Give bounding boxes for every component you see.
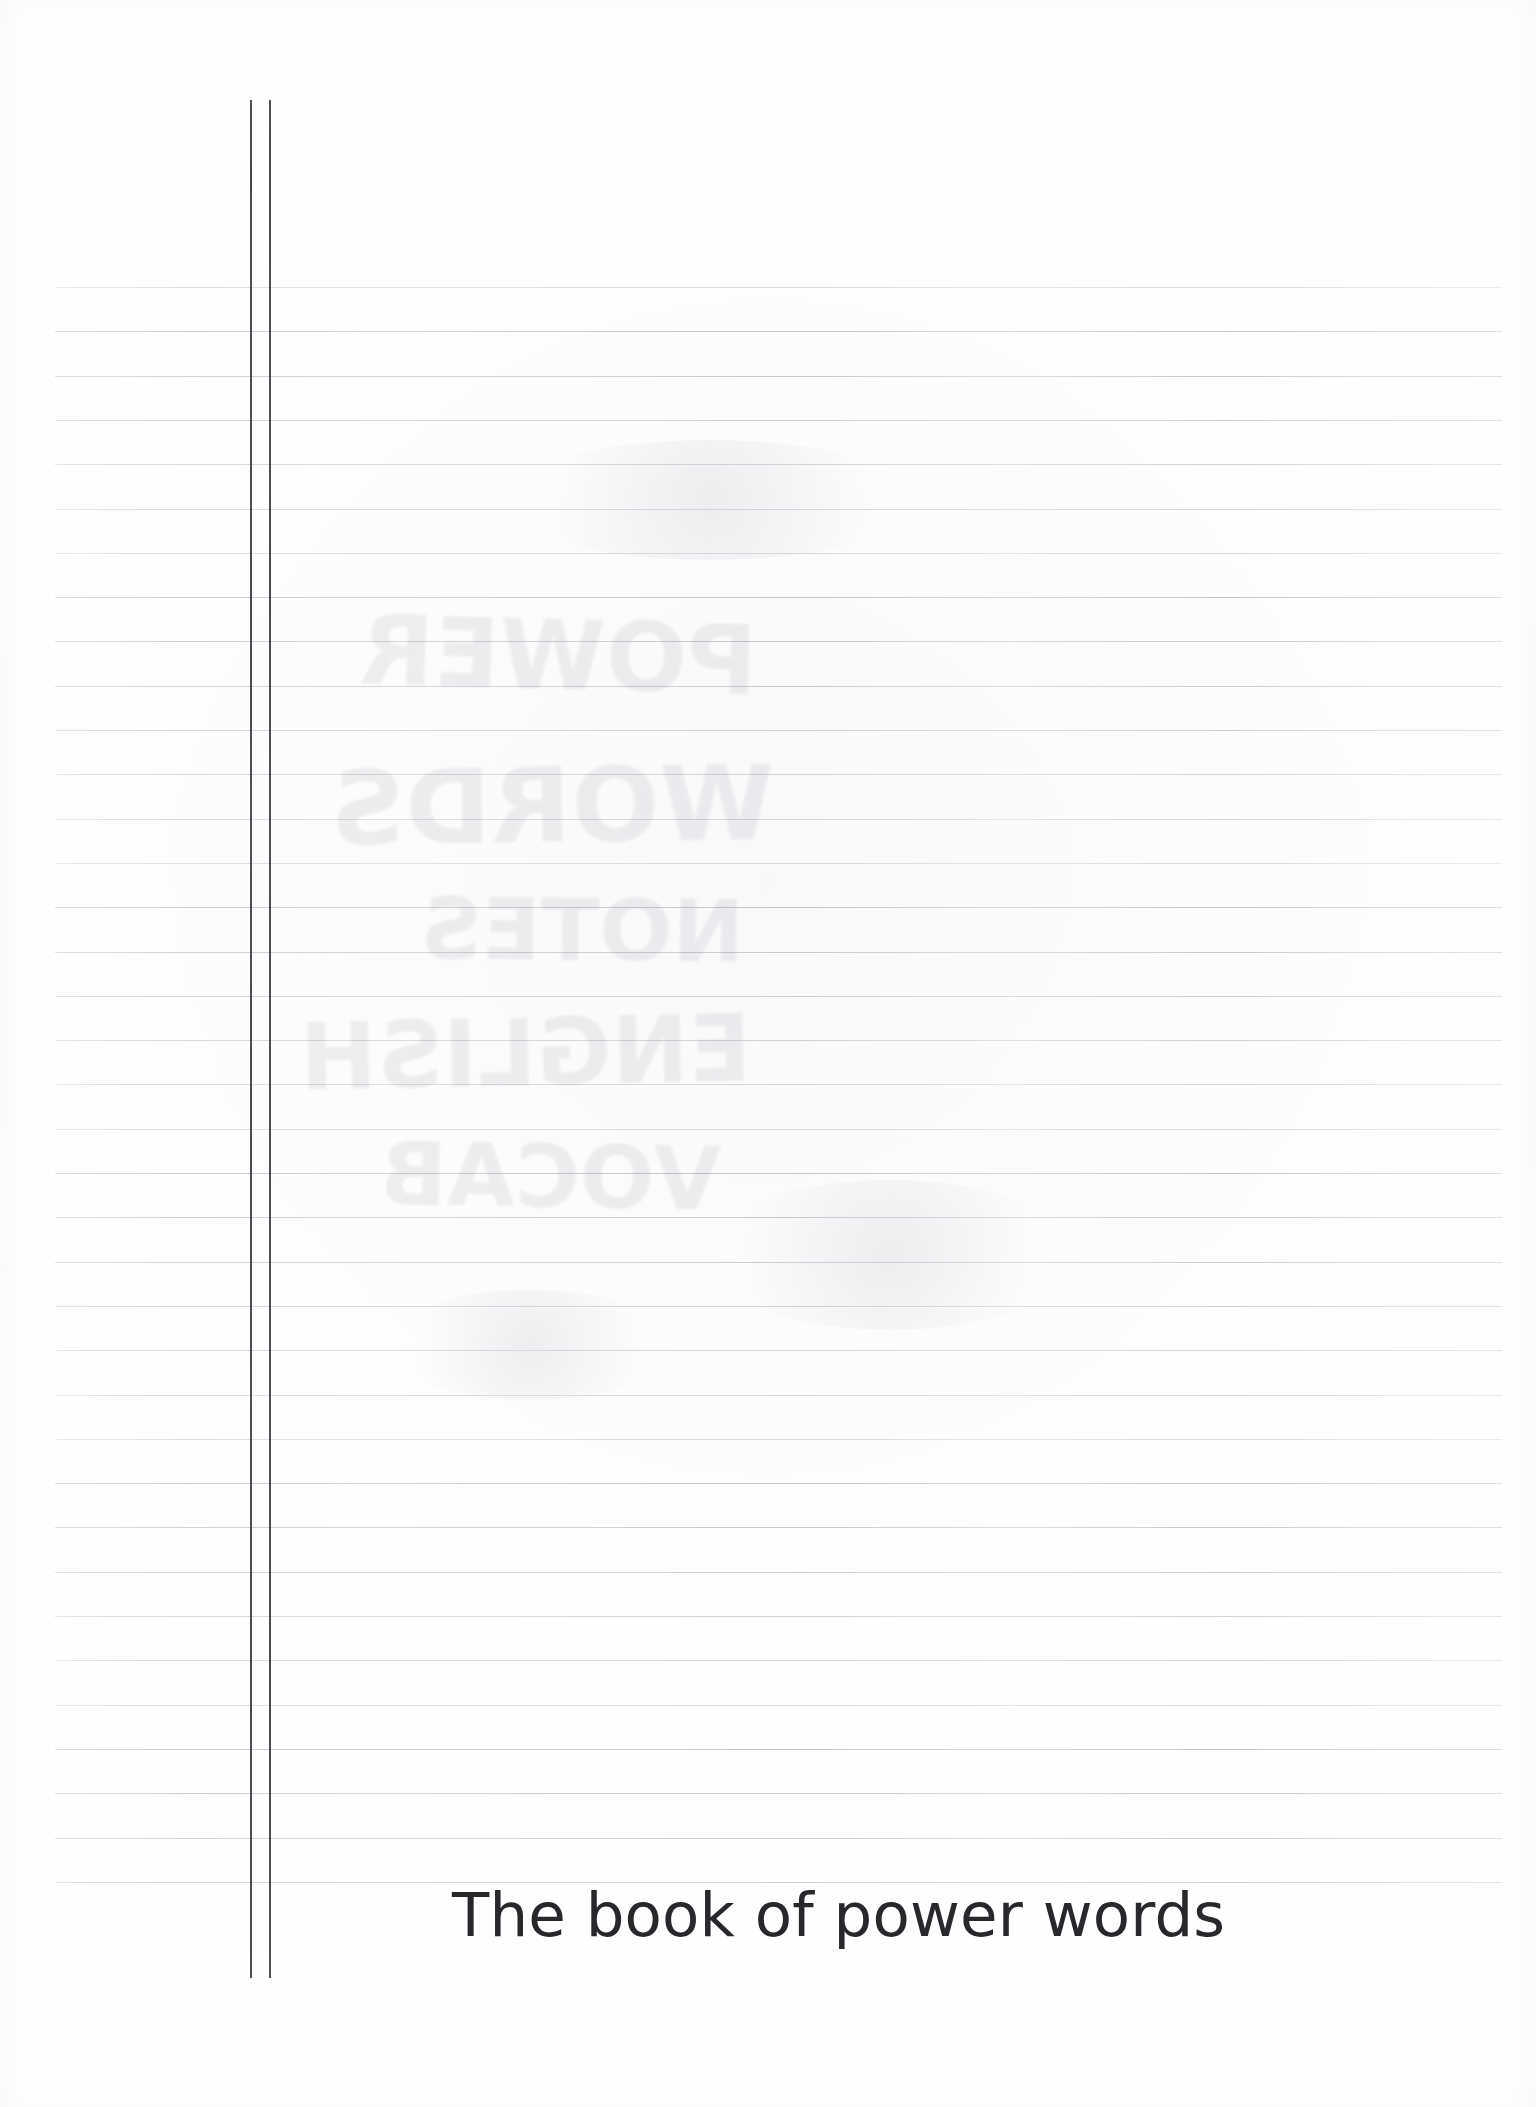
ruled-line: [55, 907, 1502, 908]
ruled-line: [55, 1217, 1502, 1218]
ruled-line: [55, 1616, 1502, 1617]
ruled-line: [55, 952, 1502, 953]
margin-rule-2: [269, 100, 271, 1978]
ruled-line: [55, 1483, 1502, 1484]
ruled-line: [55, 819, 1502, 820]
ruled-line: [55, 420, 1502, 421]
margin-rule-1: [250, 100, 252, 1978]
ruled-line: [55, 1306, 1502, 1307]
ruled-line: [55, 1527, 1502, 1528]
paper-smudge: [380, 1290, 680, 1400]
ruled-line: [55, 686, 1502, 687]
ruled-line: [55, 1350, 1502, 1351]
show-through-text: NOTES: [419, 878, 744, 981]
ruled-line: [55, 509, 1502, 510]
ruled-line: [55, 331, 1502, 332]
ruled-line: [55, 1838, 1502, 1839]
show-through-text: ENGLISH: [299, 995, 753, 1111]
ruled-line: [55, 1439, 1502, 1440]
ruled-line: [55, 597, 1502, 598]
ruled-line: [55, 1572, 1502, 1573]
show-through-text: WORDS: [329, 742, 775, 870]
ruled-line: [55, 287, 1502, 288]
ruled-line: [55, 1395, 1502, 1396]
show-through-text: VOCAB: [379, 1122, 722, 1230]
ruled-line: [55, 376, 1502, 377]
ruled-line: [55, 730, 1502, 731]
paper-smudge: [700, 1180, 1080, 1330]
ruled-line: [55, 1173, 1502, 1174]
ruled-line: [55, 863, 1502, 864]
notebook-page: POWERWORDSNOTESENGLISHVOCAB The book of …: [0, 0, 1536, 2107]
ruled-line: [55, 1660, 1502, 1661]
ruled-line: [55, 1262, 1502, 1263]
ruled-line: [55, 1749, 1502, 1750]
ruled-line: [55, 996, 1502, 997]
show-through-text: POWER: [359, 595, 759, 717]
ruled-line: [55, 1705, 1502, 1706]
ruled-line: [55, 1084, 1502, 1085]
ruled-line: [55, 774, 1502, 775]
ruled-line: [55, 1129, 1502, 1130]
ruled-lines: [0, 0, 1536, 2107]
ruled-line: [55, 1793, 1502, 1794]
page-title: The book of power words: [452, 1884, 1225, 1945]
paper-texture: [0, 0, 1536, 2107]
ruled-line: [55, 641, 1502, 642]
scan-edge-vignette: [0, 0, 1536, 2107]
paper-smudge: [500, 440, 920, 560]
ruled-line: [55, 1040, 1502, 1041]
ruled-line: [55, 553, 1502, 554]
ruled-line: [55, 464, 1502, 465]
